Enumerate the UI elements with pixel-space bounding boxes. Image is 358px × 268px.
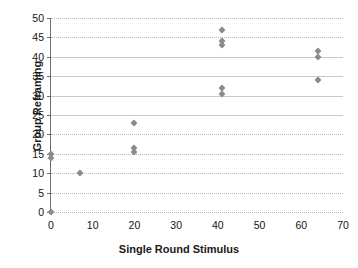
y-tick-label: 0 [38,206,44,218]
y-tick-mark [47,76,51,77]
y-tick-mark [47,18,51,19]
data-point [314,77,321,84]
y-tick-mark [47,173,51,174]
gridline-y [51,173,343,174]
x-tick-label: 30 [170,219,182,231]
x-tick-label: 10 [87,219,99,231]
data-point [131,119,138,126]
gridline-y [51,115,343,116]
gridline-y [51,18,343,19]
y-tick-mark [47,193,51,194]
y-tick-label: 5 [38,187,44,199]
y-tick-label: 15 [32,148,44,160]
y-tick-label: 25 [32,109,44,121]
y-tick-label: 50 [32,12,44,24]
gridline-y [51,76,343,77]
data-point [314,53,321,60]
gridline-y [51,134,343,135]
y-tick-label: 10 [32,167,44,179]
y-tick-mark [47,134,51,135]
data-point [218,26,225,33]
y-tick-mark [47,37,51,38]
y-tick-mark [47,96,51,97]
data-point [218,42,225,49]
gridline-y [51,193,343,194]
data-point [47,154,54,161]
y-tick-label: 40 [32,51,44,63]
x-tick-label: 60 [295,219,307,231]
plot-area: 05101520253035404550 010203040506070 [50,18,343,212]
y-tick-mark [47,115,51,116]
x-tick-label: 20 [129,219,141,231]
x-tick-label: 40 [212,219,224,231]
x-axis-title: Single Round Stimulus [0,243,358,255]
y-tick-label: 20 [32,128,44,140]
x-tick-label: 50 [254,219,266,231]
y-tick-label: 45 [32,31,44,43]
scatter-chart: Group Reframing 05101520253035404550 010… [0,0,358,268]
y-tick-mark [47,57,51,58]
x-tick-label: 70 [337,219,349,231]
x-tick-label: 0 [48,219,54,231]
gridline-y [51,212,343,213]
gridline-y [51,154,343,155]
y-tick-label: 30 [32,90,44,102]
gridline-y [51,96,343,97]
data-point [47,208,54,215]
gridline-y [51,57,343,58]
data-point [77,170,84,177]
gridline-y [51,37,343,38]
y-tick-label: 35 [32,70,44,82]
